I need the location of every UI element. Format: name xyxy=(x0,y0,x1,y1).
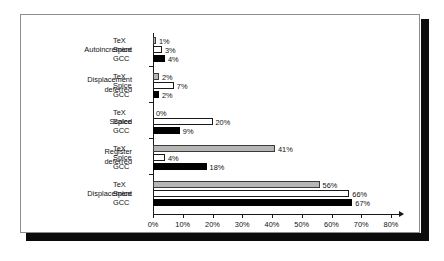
bar-gcc xyxy=(153,91,159,98)
x-axis-tick xyxy=(391,214,392,218)
series-label-gcc: GCC xyxy=(113,199,143,207)
x-axis-tick-label: 80% xyxy=(384,220,399,229)
group-tick xyxy=(149,174,154,175)
bar-spice xyxy=(153,118,213,125)
bar-gcc xyxy=(153,163,207,170)
x-axis-tick xyxy=(361,214,362,218)
chart-frame: AutoincrementTeX1%Spice3%GCC4%Displaceme… xyxy=(20,14,420,233)
bar-value-label: 67% xyxy=(355,200,370,208)
bar-value-label: 2% xyxy=(162,74,173,82)
bar-spice xyxy=(153,154,165,161)
series-label-spice: Spice xyxy=(113,154,143,162)
series-label-gcc: GCC xyxy=(113,55,143,63)
bar-value-label: 4% xyxy=(168,155,179,163)
x-axis-tick xyxy=(213,214,214,218)
bar-value-label: 18% xyxy=(210,164,225,172)
series-label-spice: Spice xyxy=(113,118,143,126)
x-axis-tick-label: 0% xyxy=(148,220,159,229)
bar-value-label: 9% xyxy=(183,128,194,136)
bar-value-label: 1% xyxy=(159,38,170,46)
series-label-spice: Spice xyxy=(113,82,143,90)
bar-value-label: 56% xyxy=(323,182,338,190)
group-tick xyxy=(149,66,154,67)
bar-gcc xyxy=(153,127,180,134)
series-label-tex: TeX xyxy=(113,109,143,117)
series-label-gcc: GCC xyxy=(113,91,143,99)
bar-spice xyxy=(153,82,174,89)
series-label-tex: TeX xyxy=(113,73,143,81)
x-axis-tick xyxy=(242,214,243,218)
x-axis-tick-label: 30% xyxy=(235,220,250,229)
x-axis-tick-label: 20% xyxy=(205,220,220,229)
bar-value-label: 2% xyxy=(162,92,173,100)
x-axis-tick xyxy=(272,214,273,218)
bar-chart-plot: AutoincrementTeX1%Spice3%GCC4%Displaceme… xyxy=(21,15,419,232)
bar-value-label: 41% xyxy=(278,146,293,154)
bar-tex xyxy=(153,145,275,152)
series-label-spice: Spice xyxy=(113,190,143,198)
x-axis-arrow-icon xyxy=(399,211,404,217)
series-label-spice: Spice xyxy=(113,46,143,54)
x-axis-tick xyxy=(332,214,333,218)
bar-gcc xyxy=(153,55,165,62)
bar-tex xyxy=(153,181,320,188)
series-label-gcc: GCC xyxy=(113,127,143,135)
frame-shadow-bottom xyxy=(26,233,429,241)
bar-value-label: 66% xyxy=(352,191,367,199)
x-axis-tick xyxy=(183,214,184,218)
bar-value-label: 20% xyxy=(216,119,231,127)
x-axis-tick-label: 10% xyxy=(175,220,190,229)
bar-spice xyxy=(153,190,349,197)
bar-value-label: 7% xyxy=(177,83,188,91)
x-axis-tick-label: 40% xyxy=(265,220,280,229)
x-axis-tick-label: 70% xyxy=(354,220,369,229)
series-label-gcc: GCC xyxy=(113,163,143,171)
bar-value-label: 3% xyxy=(165,47,176,55)
x-axis-tick-label: 50% xyxy=(294,220,309,229)
series-label-tex: TeX xyxy=(113,181,143,189)
bar-spice xyxy=(153,46,162,53)
group-tick xyxy=(149,102,154,103)
bar-gcc xyxy=(153,199,352,206)
bar-value-label: 4% xyxy=(168,56,179,64)
bar-value-label: 0% xyxy=(156,110,167,118)
x-axis-tick xyxy=(302,214,303,218)
x-axis-line xyxy=(153,214,403,215)
frame-shadow-right xyxy=(421,19,429,240)
group-tick xyxy=(149,138,154,139)
x-axis-tick xyxy=(153,214,154,218)
series-label-tex: TeX xyxy=(113,37,143,45)
bar-tex xyxy=(153,73,159,80)
x-axis-tick-label: 60% xyxy=(324,220,339,229)
bar-tex xyxy=(153,37,156,44)
series-label-tex: TeX xyxy=(113,145,143,153)
